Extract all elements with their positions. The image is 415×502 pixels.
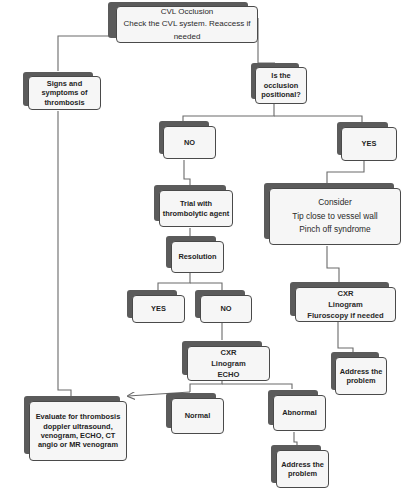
node-resolution: Resolution [166, 236, 224, 274]
node-no-mid: NO [195, 290, 252, 324]
node-address-bottom: Address the problem [271, 445, 329, 489]
cvl-subtitle: Check the CVL system. Reaccess if needed [117, 18, 257, 43]
node-evaluate-thrombosis: Evaluate for thrombosis doppler ultrasou… [24, 396, 128, 462]
cvl-title: CVL Occlusion [161, 6, 214, 18]
connector-yes-to-consider [327, 161, 364, 183]
node-trial-thrombolytic: Trial with thrombolytic agent [154, 185, 234, 228]
node-abnormal: Abnormal [268, 390, 326, 432]
connector-positional-branch [183, 103, 274, 121]
node-consider: Consider Tip close to vessel wall Pinch … [264, 183, 402, 246]
connector-resolution-branch [158, 273, 190, 290]
node-cvl-occlusion: CVL Occlusion Check the CVL system. Reac… [108, 2, 260, 44]
connector-signs-to-evaluate [58, 111, 71, 396]
node-is-positional: Is the occlusion positional? [251, 63, 307, 105]
node-signs-symptoms: Signs and symptoms of thrombosis [23, 72, 101, 112]
node-yes-top: YES [337, 122, 397, 162]
connector-no-to-trial [184, 160, 190, 185]
node-normal: Normal [166, 393, 224, 435]
connector-cvl-to-positional [258, 18, 275, 63]
connector-abnormal-to-address [294, 432, 297, 445]
connector-cxr-to-address [338, 322, 353, 352]
node-cxr-echo: CXR Linogram ECHO [182, 341, 270, 382]
connector-consider-to-cxr [327, 246, 339, 282]
node-cxr-fluroscopy: CXR Linogram Fluroscopy if needed [290, 282, 397, 323]
node-address-right: Address the problem [331, 352, 387, 396]
node-no-top: NO [159, 121, 217, 160]
node-yes-mid: YES [127, 290, 185, 324]
